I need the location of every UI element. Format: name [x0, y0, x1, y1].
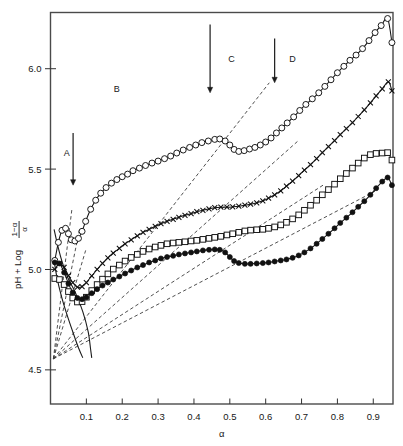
marker-filled-circles-50	[332, 226, 337, 231]
marker-filled-circles-51	[338, 220, 343, 225]
marker-filled-circles-23	[176, 252, 181, 257]
marker-open-squares-36	[254, 227, 260, 233]
marker-open-circles-60	[378, 23, 384, 29]
marker-filled-circles-43	[290, 255, 295, 260]
marker-open-squares-56	[373, 151, 379, 157]
marker-filled-circles-59	[385, 175, 390, 180]
marker-open-circles-21	[149, 160, 155, 166]
x-tick-label-2: 0.3	[151, 411, 164, 422]
marker-open-squares-40	[278, 222, 284, 228]
marker-open-squares-53	[355, 160, 361, 166]
marker-open-squares-38	[266, 226, 272, 232]
marker-filled-circles-10	[100, 283, 105, 288]
marker-open-squares-37	[260, 227, 266, 233]
marker-open-circles-42	[268, 135, 274, 141]
marker-filled-circles-36	[248, 261, 253, 266]
marker-open-circles-44	[279, 125, 285, 131]
marker-filled-circles-19	[153, 258, 158, 263]
marker-filled-circles-9	[95, 287, 100, 292]
marker-open-squares-21	[164, 241, 170, 247]
marker-filled-circles-55	[362, 199, 367, 204]
region-label-c: C	[228, 54, 235, 64]
marker-filled-circles-28	[207, 247, 212, 252]
marker-open-circles-20	[143, 162, 149, 168]
y-axis-label-denominator: α	[20, 227, 29, 232]
marker-filled-circles-13	[117, 274, 122, 279]
marker-filled-circles-32	[227, 255, 232, 260]
marker-open-circles-58	[366, 38, 372, 44]
marker-open-squares-30	[218, 234, 224, 240]
x-axis-label-text: α	[219, 428, 225, 439]
marker-filled-circles-48	[320, 236, 325, 241]
marker-open-circles-52	[328, 77, 334, 83]
marker-filled-circles-25	[189, 250, 194, 255]
marker-open-squares-46	[314, 197, 320, 203]
marker-open-squares-50	[337, 176, 343, 182]
marker-filled-circles-2	[62, 270, 67, 275]
marker-open-squares-27	[200, 237, 206, 243]
marker-filled-circles-12	[111, 277, 116, 282]
marker-open-circles-1	[55, 239, 61, 245]
marker-filled-circles-53	[350, 210, 355, 215]
marker-open-squares-58	[385, 150, 391, 156]
marker-open-squares-17	[140, 249, 146, 255]
marker-open-squares-34	[242, 228, 248, 234]
marker-filled-circles-22	[171, 253, 176, 258]
marker-open-circles-7	[75, 235, 81, 241]
marker-filled-circles-14	[123, 271, 128, 276]
marker-filled-circles-49	[326, 231, 331, 236]
marker-filled-circles-54	[356, 204, 361, 209]
marker-open-circles-24	[168, 153, 174, 159]
marker-open-squares-55	[368, 152, 374, 158]
marker-open-circles-43	[273, 130, 279, 136]
marker-open-circles-53	[334, 70, 340, 76]
marker-open-squares-52	[350, 165, 356, 171]
marker-filled-circles-35	[242, 261, 247, 266]
marker-open-squares-32	[230, 231, 236, 237]
marker-filled-circles-17	[141, 263, 146, 268]
marker-open-squares-25	[188, 238, 194, 244]
marker-open-squares-31	[224, 232, 230, 238]
marker-open-circles-18	[130, 168, 136, 174]
marker-filled-circles-47	[314, 241, 319, 246]
x-tick-label-0: 0.1	[80, 411, 93, 422]
marker-open-squares-51	[344, 171, 350, 177]
y-tick-label-2: 5.5	[28, 164, 41, 175]
marker-open-circles-45	[284, 120, 290, 126]
marker-open-squares-11	[105, 271, 111, 277]
marker-filled-circles-4	[70, 290, 75, 295]
region-label-a: A	[64, 148, 70, 158]
marker-filled-circles-58	[380, 179, 385, 184]
marker-open-circles-22	[155, 158, 161, 164]
marker-open-squares-13	[117, 262, 123, 268]
marker-open-circles-62	[389, 40, 395, 46]
marker-open-squares-39	[272, 224, 278, 230]
marker-open-squares-14	[122, 258, 128, 264]
marker-open-squares-26	[194, 238, 200, 244]
region-label-b: B	[114, 84, 120, 94]
marker-open-circles-55	[347, 57, 353, 63]
marker-open-squares-54	[362, 155, 368, 161]
marker-open-circles-30	[205, 138, 211, 144]
marker-filled-circles-52	[344, 215, 349, 220]
x-tick-label-7: 0.8	[331, 411, 344, 422]
marker-open-circles-56	[353, 52, 359, 58]
marker-open-circles-61	[385, 16, 391, 22]
y-tick-label-3: 6.0	[28, 63, 41, 74]
marker-open-circles-29	[199, 140, 205, 146]
chart-figure: 0.10.20.30.40.50.60.70.80.9 4.55.05.56.0…	[0, 0, 403, 446]
x-axis-tick-labels: 0.10.20.30.40.50.60.70.80.9	[80, 411, 380, 422]
marker-open-squares-12	[110, 266, 116, 272]
marker-filled-circles-60	[389, 183, 394, 188]
marker-open-circles-54	[341, 63, 347, 69]
marker-filled-circles-26	[194, 249, 199, 254]
marker-open-squares-15	[128, 255, 134, 261]
x-tick-label-1: 0.2	[116, 411, 129, 422]
marker-open-circles-49	[309, 96, 315, 102]
y-axis-label-numerator: 1−α	[10, 222, 19, 236]
x-tick-label-6: 0.7	[295, 411, 308, 422]
marker-open-squares-49	[332, 181, 338, 187]
marker-filled-circles-39	[266, 260, 271, 265]
marker-open-circles-28	[193, 142, 199, 148]
y-tick-label-1: 5.0	[28, 264, 41, 275]
